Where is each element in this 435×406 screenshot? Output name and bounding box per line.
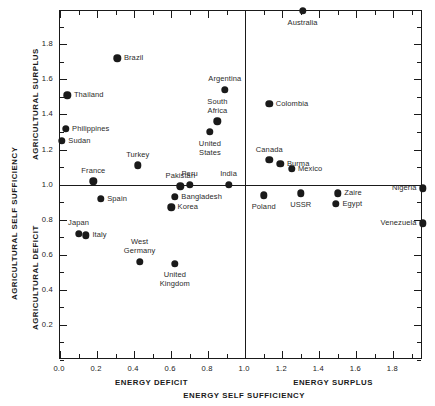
y-tick-right bbox=[417, 307, 421, 308]
x-tick-label: 0.6 bbox=[165, 364, 176, 373]
data-point-label: Philippines bbox=[72, 124, 109, 133]
data-point bbox=[167, 204, 174, 211]
x-tick bbox=[245, 351, 246, 358]
y-tick bbox=[60, 202, 64, 203]
x-tick bbox=[60, 351, 61, 358]
y-tick-right bbox=[414, 325, 421, 326]
y-tick-label: 0.8 bbox=[33, 214, 53, 223]
y-axis-lower-quadrant-label: AGRICULTURAL DEFICIT bbox=[31, 225, 40, 330]
x-tick-label: 1.0 bbox=[239, 364, 250, 373]
data-point bbox=[288, 165, 295, 172]
y-tick-right bbox=[414, 79, 421, 80]
y-axis-title: AGRICULTURAL SELF SUFFICIENCY bbox=[10, 147, 19, 300]
x-axis-right-quadrant-label: ENERGY SURPLUS bbox=[293, 378, 373, 387]
data-point-label: Argentina bbox=[208, 74, 241, 83]
y-tick-label: 1.0 bbox=[33, 179, 53, 188]
data-point-label: Brazil bbox=[124, 54, 143, 63]
data-point-label: Spain bbox=[107, 194, 127, 203]
scatter-chart: AGRICULTURAL SELF SUFFICIENCY AGRICULTUR… bbox=[0, 0, 435, 406]
x-tick bbox=[116, 354, 117, 358]
data-point-label: USSR bbox=[290, 200, 311, 209]
data-point-label: Colombia bbox=[276, 99, 308, 108]
data-point bbox=[206, 128, 213, 135]
data-point-label: Bangladesh bbox=[181, 192, 222, 201]
x-tick-top bbox=[134, 11, 135, 18]
data-point-label: Nigeria bbox=[392, 184, 416, 193]
y-tick-right bbox=[417, 342, 421, 343]
data-point-label: India bbox=[220, 169, 237, 178]
y-tick-right bbox=[414, 150, 421, 151]
data-point-label: Poland bbox=[252, 202, 276, 211]
x-tick-label: 1.8 bbox=[387, 364, 398, 373]
y-tick bbox=[60, 255, 67, 256]
data-point bbox=[82, 232, 89, 239]
y-tick-label: 1.2 bbox=[33, 144, 53, 153]
data-point-label: SouthAfrica bbox=[207, 97, 227, 115]
data-point-label: Thailand bbox=[74, 91, 104, 100]
y-tick bbox=[60, 79, 67, 80]
y-tick bbox=[60, 342, 64, 343]
data-point bbox=[260, 191, 267, 198]
x-tick bbox=[282, 351, 283, 358]
y-tick-label: 1.4 bbox=[33, 109, 53, 118]
x-axis-title: ENERGY SELF SUFFICIENCY bbox=[183, 391, 305, 400]
x-tick-label: 0.4 bbox=[127, 364, 138, 373]
x-tick-top bbox=[227, 11, 228, 15]
data-point bbox=[297, 190, 304, 197]
data-point bbox=[186, 181, 193, 188]
data-point bbox=[171, 193, 178, 200]
energy-reference-line bbox=[245, 11, 246, 358]
data-point bbox=[221, 86, 228, 93]
data-point bbox=[332, 200, 339, 207]
x-tick bbox=[134, 351, 135, 358]
x-tick-label: 1.2 bbox=[276, 364, 287, 373]
y-tick-label: 0.2 bbox=[33, 319, 53, 328]
y-tick bbox=[60, 27, 64, 28]
x-tick-label: 1.4 bbox=[313, 364, 324, 373]
data-point bbox=[136, 258, 143, 265]
data-point bbox=[419, 220, 426, 227]
x-tick-top bbox=[97, 11, 98, 18]
x-tick-label: 1.6 bbox=[350, 364, 361, 373]
y-tick bbox=[60, 44, 67, 45]
x-tick bbox=[190, 354, 191, 358]
data-point-label: Australia bbox=[288, 18, 318, 27]
data-point bbox=[225, 181, 232, 188]
data-point-label: Egypt bbox=[342, 199, 362, 208]
y-tick-label: 1.6 bbox=[33, 74, 53, 83]
x-tick-top bbox=[375, 11, 376, 15]
y-tick-label: 1.8 bbox=[33, 39, 53, 48]
data-point bbox=[266, 156, 273, 163]
data-point bbox=[64, 91, 71, 98]
x-tick-top bbox=[412, 11, 413, 15]
x-tick bbox=[79, 354, 80, 358]
x-tick-top bbox=[264, 11, 265, 15]
data-point-label: UnitedStates bbox=[199, 139, 221, 157]
y-tick bbox=[60, 237, 64, 238]
data-point bbox=[419, 184, 426, 191]
data-point bbox=[134, 162, 141, 169]
x-tick-top bbox=[319, 11, 320, 18]
y-tick-right bbox=[417, 62, 421, 63]
y-tick bbox=[60, 325, 67, 326]
x-tick bbox=[227, 354, 228, 358]
y-tick-right bbox=[414, 255, 421, 256]
data-point bbox=[171, 260, 178, 267]
y-tick bbox=[60, 114, 67, 115]
data-point bbox=[177, 183, 184, 190]
x-tick-label: 0.2 bbox=[90, 364, 101, 373]
y-tick-right bbox=[417, 167, 421, 168]
y-tick-right bbox=[414, 114, 421, 115]
x-tick bbox=[338, 354, 339, 358]
x-tick bbox=[356, 351, 357, 358]
x-tick-top bbox=[79, 11, 80, 15]
data-point-label: UnitedKingdom bbox=[160, 270, 190, 288]
x-tick-top bbox=[153, 11, 154, 15]
data-point bbox=[58, 137, 65, 144]
y-tick-right bbox=[414, 290, 421, 291]
y-tick bbox=[60, 150, 67, 151]
data-point bbox=[114, 55, 121, 62]
x-tick-top bbox=[338, 11, 339, 15]
data-point bbox=[277, 160, 284, 167]
x-tick-label: 0.8 bbox=[202, 364, 213, 373]
